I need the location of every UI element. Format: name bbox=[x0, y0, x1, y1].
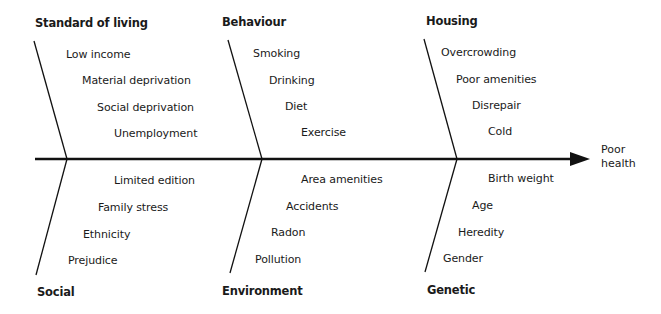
cause-heredity: Heredity bbox=[458, 226, 504, 239]
cause-family-stress: Family stress bbox=[98, 201, 168, 214]
cause-ethnicity: Ethnicity bbox=[83, 228, 130, 241]
cause-prejudice: Prejudice bbox=[68, 254, 117, 267]
cause-unemployment: Unemployment bbox=[114, 127, 197, 140]
cause-smoking: Smoking bbox=[253, 47, 300, 60]
outcome-label-line2: health bbox=[601, 157, 636, 170]
cause-social-deprivation: Social deprivation bbox=[97, 101, 194, 114]
arrow-head-icon bbox=[570, 152, 590, 166]
category-title-environment: Environment bbox=[222, 284, 303, 298]
category-title-housing: Housing bbox=[426, 14, 478, 28]
fishbone-diagram: Standard of living Low income Material d… bbox=[0, 0, 661, 314]
cause-accidents: Accidents bbox=[286, 200, 338, 213]
cause-material-deprivation: Material deprivation bbox=[82, 74, 191, 87]
cause-area-amenities: Area amenities bbox=[301, 173, 383, 186]
cause-gender: Gender bbox=[443, 252, 483, 265]
bone-standard-of-living bbox=[34, 41, 67, 159]
cause-exercise: Exercise bbox=[301, 126, 346, 139]
cause-diet: Diet bbox=[285, 100, 307, 113]
bone-social bbox=[36, 159, 67, 275]
cause-limited-edition: Limited edition bbox=[114, 174, 195, 187]
cause-birth-weight: Birth weight bbox=[488, 172, 554, 185]
cause-pollution: Pollution bbox=[255, 253, 301, 266]
cause-radon: Radon bbox=[271, 226, 305, 239]
cause-cold: Cold bbox=[488, 125, 512, 138]
category-title-social: Social bbox=[37, 285, 74, 299]
category-title-genetic: Genetic bbox=[427, 283, 475, 297]
category-title-standard-of-living: Standard of living bbox=[35, 16, 148, 30]
category-title-behaviour: Behaviour bbox=[222, 15, 286, 29]
cause-low-income: Low income bbox=[66, 48, 130, 61]
cause-disrepair: Disrepair bbox=[472, 99, 521, 112]
cause-poor-amenities: Poor amenities bbox=[456, 73, 536, 86]
cause-drinking: Drinking bbox=[269, 74, 315, 87]
outcome-label-line1: Poor bbox=[601, 143, 625, 156]
cause-overcrowding: Overcrowding bbox=[441, 46, 516, 59]
cause-age: Age bbox=[472, 199, 493, 212]
